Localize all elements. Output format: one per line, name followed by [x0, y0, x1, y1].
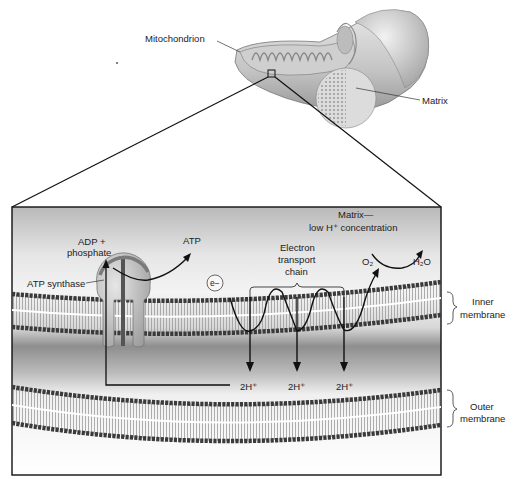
mitochondrion-illustration: [12, 10, 441, 207]
proton-label-1: 2H⁺: [240, 381, 257, 392]
atp-label: ATP: [183, 235, 201, 246]
outer-membrane-brace: [447, 390, 457, 427]
matrix-note-line2: low H⁺ concentration: [309, 222, 397, 233]
outer-membrane-label-line2: membrane: [460, 413, 505, 424]
electron-label: e−: [210, 278, 220, 288]
matrix-note-line1: Matrix—: [338, 209, 374, 220]
o2-label: O₂: [362, 256, 373, 267]
etc-label-line3: chain: [285, 266, 308, 277]
adp-label-line1: ADP +: [78, 236, 106, 247]
h2o-label: H₂O: [413, 256, 431, 267]
adp-label-line2: phosphate: [67, 247, 111, 258]
stray-dot: [116, 62, 118, 64]
mitochondrion-label: Mitochondrion: [145, 33, 205, 44]
etc-label-line2: transport: [278, 254, 316, 265]
mitochondrion-leader-line: [217, 41, 240, 52]
inner-membrane-label-line1: Inner: [472, 296, 494, 307]
mitochondrion-diagram: Mitochondrion Matrix: [0, 0, 520, 479]
matrix-label: Matrix: [422, 95, 448, 106]
inner-membrane-brace: [447, 292, 457, 324]
atp-synthase-label: ATP synthase: [27, 278, 85, 289]
zoom-line-left: [12, 77, 268, 207]
etc-label-line1: Electron: [280, 242, 315, 253]
proton-label-3: 2H⁺: [336, 381, 353, 392]
outer-membrane-label-line1: Outer: [470, 401, 494, 412]
inner-membrane-label-line2: membrane: [460, 309, 505, 320]
proton-label-2: 2H⁺: [288, 381, 305, 392]
